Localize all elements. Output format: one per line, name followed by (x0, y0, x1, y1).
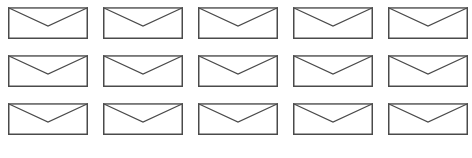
envelope-icon-graphic (293, 103, 373, 135)
envelope-icon-graphic (388, 103, 468, 135)
envelope-icon[interactable] (198, 103, 278, 135)
envelope-icon-graphic (8, 55, 88, 87)
envelope-grid (0, 0, 472, 158)
envelope-icon[interactable] (388, 55, 468, 87)
envelope-icon[interactable] (103, 7, 183, 39)
envelope-icon[interactable] (198, 55, 278, 87)
envelope-icon-graphic (103, 7, 183, 39)
envelope-icon[interactable] (293, 103, 373, 135)
envelope-icon[interactable] (8, 7, 88, 39)
envelope-icon-graphic (198, 55, 278, 87)
envelope-icon-graphic (8, 103, 88, 135)
envelope-icon[interactable] (103, 103, 183, 135)
envelope-icon-graphic (293, 55, 373, 87)
envelope-icon[interactable] (103, 55, 183, 87)
envelope-icon-graphic (198, 7, 278, 39)
envelope-icon[interactable] (388, 103, 468, 135)
envelope-icon-graphic (103, 55, 183, 87)
envelope-icon[interactable] (8, 103, 88, 135)
envelope-icon-graphic (8, 7, 88, 39)
envelope-icon-graphic (198, 103, 278, 135)
envelope-icon-graphic (388, 7, 468, 39)
envelope-icon[interactable] (8, 55, 88, 87)
envelope-icon[interactable] (293, 55, 373, 87)
envelope-icon-graphic (293, 7, 373, 39)
envelope-icon[interactable] (198, 7, 278, 39)
envelope-icon[interactable] (388, 7, 468, 39)
envelope-icon-graphic (103, 103, 183, 135)
envelope-icon[interactable] (293, 7, 373, 39)
envelope-icon-graphic (388, 55, 468, 87)
